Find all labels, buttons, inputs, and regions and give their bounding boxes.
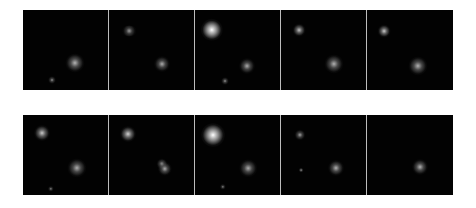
image-panel-r1-c1 bbox=[23, 10, 109, 90]
fluorescent-spot bbox=[65, 53, 84, 72]
fluorescent-spot bbox=[48, 76, 56, 84]
fluorescent-spot bbox=[158, 162, 172, 176]
image-row-2 bbox=[23, 115, 455, 195]
fluorescent-spot bbox=[34, 125, 50, 141]
fluorescent-spot bbox=[239, 58, 255, 74]
fluorescent-spot bbox=[220, 184, 226, 190]
image-panel-r1-c2 bbox=[109, 10, 195, 90]
fluorescent-spot bbox=[324, 54, 343, 73]
fluorescent-spot bbox=[67, 158, 86, 177]
image-panel-r2-c5 bbox=[367, 115, 453, 195]
fluorescent-spot bbox=[154, 56, 170, 72]
image-panel-r1-c4 bbox=[281, 10, 367, 90]
fluorescent-spot bbox=[239, 159, 257, 177]
fluorescent-spot bbox=[48, 186, 54, 192]
fluorescent-spot bbox=[378, 25, 391, 38]
fluorescent-spot bbox=[412, 159, 428, 175]
image-panel-r2-c2 bbox=[109, 115, 195, 195]
fluorescent-spot bbox=[201, 19, 223, 41]
fluorescent-spot bbox=[121, 25, 137, 36]
image-panel-r2-c4 bbox=[281, 115, 367, 195]
fluorescent-spot bbox=[120, 126, 136, 142]
fluorescent-spot bbox=[201, 123, 225, 147]
image-panel-r2-c1 bbox=[23, 115, 109, 195]
fluorescent-spot bbox=[328, 160, 344, 176]
image-row-1 bbox=[23, 10, 455, 90]
fluorescent-spot bbox=[221, 77, 229, 85]
fluorescent-spot bbox=[294, 129, 305, 140]
fluorescent-spot bbox=[408, 56, 427, 75]
image-panel-r2-c3 bbox=[195, 115, 281, 195]
image-panel-r1-c3 bbox=[195, 10, 281, 90]
fluorescent-spot bbox=[293, 24, 306, 37]
image-panel-r1-c5 bbox=[367, 10, 453, 90]
fluorescent-spot bbox=[299, 168, 304, 173]
